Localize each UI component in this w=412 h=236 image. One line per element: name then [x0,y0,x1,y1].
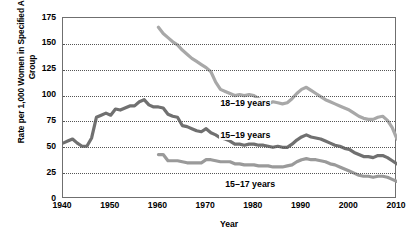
y-tick-label-50: 50 [22,142,56,151]
gridline-50 [63,147,395,148]
y-tick-label-75: 75 [22,116,56,125]
y-axis-title: Rate per 1,000 Women in Specified Age Gr… [16,0,38,152]
series-label-0: 18–19 years [219,98,271,108]
x-tick-label-2010: 2010 [374,201,412,210]
x-tick-label-1990: 1990 [279,201,323,210]
y-tick-label-150: 150 [22,38,56,47]
x-tick-label-1950: 1950 [88,201,132,210]
y-tick-label-125: 125 [22,64,56,73]
y-tick-label-25: 25 [22,168,56,177]
series-label-1: 15–19 years [219,130,271,140]
x-tick-label-1960: 1960 [135,201,179,210]
y-tick-label-175: 175 [22,13,56,22]
gridline-75 [63,121,395,122]
teen-birth-rate-chart: Rate per 1,000 Women in Specified Age Gr… [0,0,412,236]
gridline-150 [63,44,395,45]
x-tick-label-2000: 2000 [326,201,370,210]
series-lines [63,18,397,199]
gridline-100 [63,96,395,97]
gridline-125 [63,70,395,71]
x-axis-title: Year [62,219,396,229]
x-tick-label-1970: 1970 [183,201,227,210]
x-tick-label-1980: 1980 [231,201,275,210]
series-label-2: 15–17 years [224,179,276,189]
gridline-25 [63,173,395,174]
y-tick-label-100: 100 [22,90,56,99]
series-line-2 [158,155,397,182]
x-tick-label-1940: 1940 [40,201,84,210]
